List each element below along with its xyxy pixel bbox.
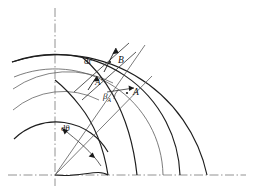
outer-arc-group [12, 54, 207, 175]
label-point-a-prime-text: A′ [95, 77, 102, 87]
label-point-a: A [133, 88, 139, 98]
label-dr: dr [84, 57, 92, 66]
concentric-arc-r78 [13, 91, 99, 110]
axis-group [8, 8, 246, 186]
label-point-b: B [118, 56, 124, 66]
radial-ray-outer [55, 45, 145, 175]
label-point-a-text: A [133, 87, 139, 97]
label-dtheta: dθ [61, 124, 70, 133]
label-beta-subscript: A [107, 97, 110, 103]
label-beta-a: βA [103, 92, 111, 103]
diagram-canvas: dr B A′ βA A dθ [0, 0, 253, 190]
label-dtheta-text: dθ [61, 123, 70, 133]
point-marker-a [126, 92, 128, 94]
point-marker-b [109, 61, 111, 63]
label-dr-text: dr [84, 56, 92, 66]
mid-arc-group [14, 69, 163, 175]
arc-r108 [14, 69, 163, 175]
label-point-b-text: B [118, 55, 124, 65]
label-point-a-prime: A′ [95, 78, 102, 87]
diagram-svg [0, 0, 253, 190]
dr-arrow-group [104, 48, 119, 72]
dtheta-arrow-head-lower [89, 152, 95, 158]
